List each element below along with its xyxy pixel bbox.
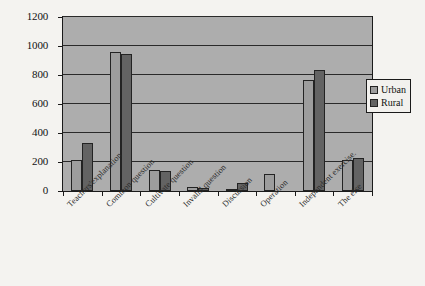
x-axis-tick-mark	[179, 192, 180, 196]
x-axis-tick-mark	[256, 192, 257, 196]
legend-item-urban: Urban	[370, 83, 406, 96]
x-axis-tick-mark	[63, 192, 64, 196]
legend-label-urban: Urban	[381, 85, 406, 95]
x-axis-tick-mark	[218, 192, 219, 196]
y-axis-tick-label: 1000	[2, 40, 48, 51]
bar-urban	[110, 52, 121, 191]
x-axis-tick-mark	[333, 192, 334, 196]
legend-swatch-rural	[370, 99, 378, 107]
legend-label-rural: Rural	[381, 98, 403, 108]
bar-group	[264, 17, 286, 191]
y-axis-tick-label: 0	[2, 185, 48, 196]
bar-group	[303, 17, 325, 191]
legend-swatch-urban	[370, 86, 378, 94]
y-axis-tick-label: 600	[2, 98, 48, 109]
y-axis-tick-label: 400	[2, 127, 48, 138]
chart-legend: Urban Rural	[366, 79, 411, 113]
x-axis-tick-mark	[295, 192, 296, 196]
x-axis-tick-mark	[372, 192, 373, 196]
bar-chart: 120010008006004002000 Teachers'explanati…	[0, 0, 425, 286]
bar-group	[71, 17, 93, 191]
legend-item-rural: Rural	[370, 96, 406, 109]
x-axis-tick-mark	[140, 192, 141, 196]
y-axis-tick-label: 1200	[2, 11, 48, 22]
y-axis-tick-label: 200	[2, 156, 48, 167]
bar-rural	[121, 54, 132, 191]
bar-group	[226, 17, 248, 191]
bar-rural	[314, 70, 325, 191]
y-axis-tick-label: 800	[2, 69, 48, 80]
bar-urban	[303, 80, 314, 191]
x-axis-tick-mark	[102, 192, 103, 196]
